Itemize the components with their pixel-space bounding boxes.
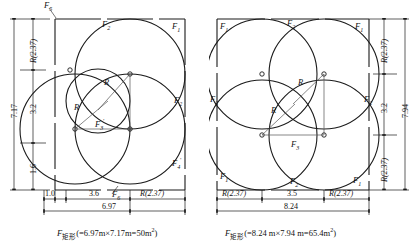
left-vdim-3-2: 3.2 xyxy=(30,104,38,114)
left-caption-close: ) xyxy=(155,228,158,238)
radius-label-r-upper-right: R xyxy=(298,78,303,87)
left-vdim-total: 7.17 xyxy=(11,104,19,118)
region-label-f1: F1 xyxy=(172,22,180,33)
panel-right: F1 F2 F1 F2 F2 F3 F1 F2 F1 R R R(2.37) 3… xyxy=(209,0,418,243)
left-hdim-1-0: 1.0 xyxy=(45,190,55,198)
left-hdim-3-6: 3.6 xyxy=(89,190,99,198)
left-hdim-total: 6.97 xyxy=(102,203,116,211)
radius-label-r-lower: R xyxy=(74,103,79,112)
region-label-f6: F6 xyxy=(112,190,120,201)
left-vdim-1-6: 1.6 xyxy=(30,164,38,174)
region-label-f1-topright: F1 xyxy=(355,22,363,33)
left-vdim-r237: R(2.37) xyxy=(30,39,38,63)
right-rect-boundary xyxy=(217,19,369,190)
figure-root: F5 F2 F1 F2 F4' F3' F6 R R R(2.37) 3.2 1… xyxy=(0,0,418,243)
right-caption-sub: 矩形 xyxy=(230,233,244,240)
left-caption-sub: 矩形 xyxy=(62,233,76,240)
region-label-f2-right-r: F2 xyxy=(364,95,372,106)
left-hdim-r237: R(2.37) xyxy=(140,190,164,198)
region-label-f5: F5 xyxy=(44,1,52,12)
right-vdim-r237-top: R(2.37) xyxy=(381,39,389,63)
left-circles xyxy=(20,19,185,184)
region-label-f2-top-right: F2 xyxy=(287,19,295,30)
panel-left: F5 F2 F1 F2 F4' F3' F6 R R R(2.37) 3.2 1… xyxy=(0,0,209,243)
right-hdim-total: 8.24 xyxy=(284,203,298,211)
region-label-f1-bottomright: F1 xyxy=(353,176,361,187)
right-vdim-total: 7.94 xyxy=(402,104,410,118)
region-label-f2-right: F2 xyxy=(174,96,182,107)
right-vdim-r237-bottom: R(2.37) xyxy=(381,158,389,182)
region-label-f3: F3 xyxy=(291,140,299,151)
region-label-f4-prime: F4' xyxy=(172,157,181,170)
region-label-f1-topleft: F1 xyxy=(220,22,228,33)
right-hdim-r237-right: R(2.37) xyxy=(329,190,353,198)
region-label-f2-left: F2 xyxy=(210,95,218,106)
left-caption-expr: (=6.97m×7.17m=50m xyxy=(76,228,151,238)
radius-label-r-lower-right: R xyxy=(271,106,276,115)
region-label-f2-bottom: F2 xyxy=(290,177,298,188)
right-hdim-r237-left: R(2.37) xyxy=(222,190,246,198)
right-caption-close: ) xyxy=(333,228,336,238)
region-label-f1-bottomleft: F1 xyxy=(220,172,228,183)
right-hdim-3-5: 3.5 xyxy=(287,190,297,198)
right-panel-drawing xyxy=(209,0,418,243)
region-label-f3-prime: F3' xyxy=(95,118,104,131)
region-label-f2-top: F2 xyxy=(102,20,110,31)
right-vdim-3-2: 3.2 xyxy=(381,103,389,113)
radius-label-r-upper: R xyxy=(104,78,109,87)
right-caption-expr: (=8.24 m×7.94 m=65.4m xyxy=(244,228,330,238)
right-panel-caption: F矩形(=8.24 m×7.94 m=65.4m2) xyxy=(225,227,336,240)
left-panel-caption: F矩形(=6.97m×7.17m=50m2) xyxy=(57,227,157,240)
